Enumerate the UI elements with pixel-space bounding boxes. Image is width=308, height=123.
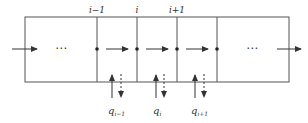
node-dot <box>175 47 179 51</box>
channel-diagram: ⋯ ⋯ i−1 i i+1 qi−1 qi qi+1 <box>0 0 308 123</box>
flow-label-q-i: qi <box>153 105 161 117</box>
node-label-i-minus-1: i−1 <box>89 5 105 15</box>
node-dot <box>135 47 139 51</box>
node-dot <box>215 47 219 51</box>
node-label-i: i <box>136 5 139 15</box>
flow-label-q-i-plus-1: qi+1 <box>191 105 208 117</box>
ellipsis-left: ⋯ <box>55 41 67 55</box>
flow-label-q-i-minus-1: qi−1 <box>108 105 125 117</box>
node-dot <box>95 47 99 51</box>
ellipsis-right: ⋯ <box>246 41 258 55</box>
node-label-i-plus-1: i+1 <box>169 5 185 15</box>
